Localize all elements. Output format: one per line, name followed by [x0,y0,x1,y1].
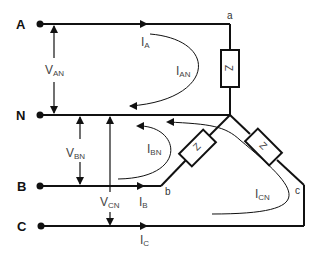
terminal-n-label: N [16,109,25,122]
current-icn-arrowhead [166,118,174,126]
terminal-c-label: C [17,220,26,233]
current-ibn-arrowhead [136,122,144,130]
current-icn-sub: CN [258,193,270,202]
voltage-vcn-main: V [100,195,108,209]
current-ian-label: IAN [176,65,190,79]
node-b-label: b [165,187,171,197]
current-ic-label: IC [140,234,149,248]
current-ian-sub: AN [179,70,190,79]
voltage-van-main: V [45,63,53,77]
line-a-wire [40,20,230,115]
voltage-vcn-sub: CN [108,201,120,210]
terminal-b-dot [37,183,44,190]
terminal-a-label: A [16,18,25,31]
circuit-diagram: A N B C a b c Z Z Z VAN VBN VCN IA IB IC… [0,0,320,256]
voltage-vbn-label: VBN [66,147,85,161]
current-ic-sub: C [143,239,149,248]
terminal-c-dot [38,223,45,230]
current-ibn-loop [118,126,171,179]
current-ia-sub: A [144,41,149,50]
node-c-label: c [295,186,300,196]
current-ibn-label: IBN [147,143,161,157]
current-ibn-sub: BN [150,148,161,157]
current-icn-loop [168,122,289,214]
impedance-za-label: Z [223,65,233,71]
current-ia-label: IA [141,36,150,50]
voltage-van-label: VAN [45,64,64,78]
node-a-label: a [227,11,233,21]
voltage-van-sub: AN [53,69,64,78]
voltage-vbn-main: V [66,146,74,160]
circuit-schematic [0,0,320,256]
terminal-b-label: B [17,180,26,193]
current-ib-sub: B [142,201,147,210]
voltage-vcn-label: VCN [100,196,120,210]
voltage-vbn-sub: BN [74,152,85,161]
current-ian-arrowhead [129,102,137,110]
current-ib-label: IB [139,196,148,210]
terminal-n-dot [37,112,44,119]
current-icn-label: ICN [255,188,270,202]
terminal-a-dot [37,21,44,28]
